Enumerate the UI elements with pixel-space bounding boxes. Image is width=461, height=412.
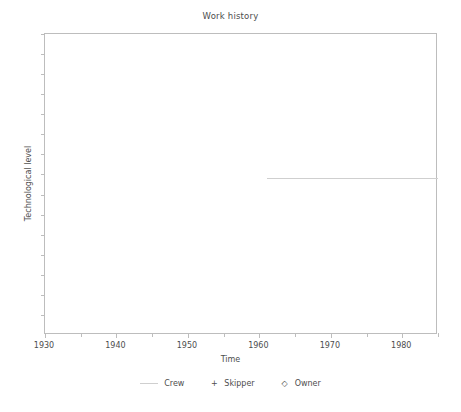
legend-entry[interactable]: ◇Owner (281, 379, 321, 388)
y-axis-tick (41, 34, 45, 35)
legend-label: Owner (295, 379, 321, 388)
x-axis-tick-label: 1980 (391, 341, 411, 350)
x-axis-major-tick (331, 333, 332, 338)
x-axis-tick-label: 1940 (105, 341, 125, 350)
legend-entry[interactable]: Crew (140, 379, 184, 388)
x-axis-major-tick (116, 333, 117, 338)
x-axis-tick-label: 1930 (34, 341, 54, 350)
y-axis-tick (41, 295, 45, 296)
y-axis-tick (41, 275, 45, 276)
legend-diamond-icon: ◇ (281, 380, 289, 388)
y-axis-tick (41, 154, 45, 155)
x-axis-major-tick (259, 333, 260, 338)
legend-label: Skipper (224, 379, 254, 388)
y-axis-tick (41, 215, 45, 216)
x-axis-minor-tick (81, 333, 82, 337)
x-axis-minor-tick (224, 333, 225, 337)
plot-area (44, 33, 437, 334)
y-axis-tick (41, 195, 45, 196)
x-axis-major-tick (45, 333, 46, 338)
x-axis-tick-label: 1970 (320, 341, 340, 350)
y-axis-tick (41, 235, 45, 236)
x-axis-minor-tick (438, 333, 439, 337)
x-axis-tick-label: 1950 (177, 341, 197, 350)
x-axis-minor-tick (367, 333, 368, 337)
x-axis-minor-tick (295, 333, 296, 337)
x-axis-label: Time (0, 355, 461, 364)
y-axis-tick (41, 54, 45, 55)
legend-line-icon (140, 383, 158, 384)
y-axis-tick (41, 315, 45, 316)
legend-entry[interactable]: +Skipper (210, 379, 254, 388)
x-axis-tick-label: 1960 (248, 341, 268, 350)
y-axis-tick (41, 94, 45, 95)
x-axis-major-tick (402, 333, 403, 338)
chart-figure: Work history Technological level 1930194… (0, 0, 461, 412)
y-axis-tick (41, 134, 45, 135)
chart-title: Work history (0, 11, 461, 21)
legend-plus-icon: + (210, 380, 218, 388)
y-axis-tick (41, 114, 45, 115)
y-axis-tick (41, 255, 45, 256)
series-line-crew (267, 178, 438, 179)
y-axis-tick (41, 74, 45, 75)
y-axis-tick (41, 174, 45, 175)
legend-label: Crew (164, 379, 184, 388)
x-axis-major-tick (188, 333, 189, 338)
x-axis-minor-tick (152, 333, 153, 337)
chart-legend: Crew+Skipper◇Owner (0, 379, 461, 388)
y-axis-label: Technological level (22, 33, 36, 334)
